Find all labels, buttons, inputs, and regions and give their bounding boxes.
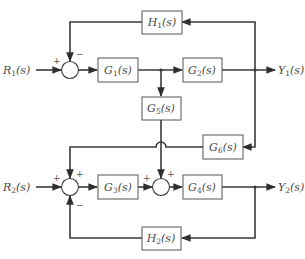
block-g2: G2(s) bbox=[183, 58, 222, 82]
wire-y1-to-g6 bbox=[243, 70, 255, 147]
block-diagram: + − + + − + + H1(s) G1(s) G2(s) G5(s) G6… bbox=[0, 0, 305, 259]
block-g5: G5(s) bbox=[142, 97, 181, 120]
summing-junction-2 bbox=[62, 179, 79, 196]
sum2-sign-top: + bbox=[76, 169, 84, 179]
block-h1: H1(s) bbox=[142, 11, 182, 34]
summing-junction-1 bbox=[62, 62, 79, 79]
summing-junction-3 bbox=[153, 179, 170, 196]
sum3-sign-left: + bbox=[143, 173, 151, 183]
block-h2: H2(s) bbox=[142, 227, 181, 250]
svg-text:H1(s): H1(s) bbox=[147, 16, 177, 30]
svg-text:G6(s): G6(s) bbox=[209, 141, 237, 155]
block-g3: G3(s) bbox=[98, 175, 138, 199]
block-g6: G6(s) bbox=[203, 135, 243, 159]
svg-text:G2(s): G2(s) bbox=[188, 64, 216, 78]
sum2-sign-bottom: − bbox=[76, 200, 84, 210]
output-label-y1: Y1(s) bbox=[278, 64, 304, 78]
input-label-r1: R1(s) bbox=[2, 64, 30, 78]
sum3-sign-top: + bbox=[167, 169, 175, 179]
wire-g6-to-sum2 bbox=[70, 142, 203, 178]
input-label-r2: R2(s) bbox=[2, 181, 30, 195]
sum1-sign-top: − bbox=[76, 49, 84, 59]
svg-text:H2(s): H2(s) bbox=[146, 232, 176, 246]
svg-text:G3(s): G3(s) bbox=[104, 181, 132, 195]
output-label-y2: Y2(s) bbox=[278, 181, 304, 195]
svg-text:G4(s): G4(s) bbox=[188, 181, 216, 195]
svg-text:G5(s): G5(s) bbox=[147, 102, 175, 116]
svg-text:G1(s): G1(s) bbox=[104, 64, 132, 78]
block-g4: G4(s) bbox=[183, 175, 222, 199]
sum2-sign-left: + bbox=[53, 173, 61, 183]
sum1-sign-left: + bbox=[53, 56, 61, 66]
block-g1: G1(s) bbox=[98, 58, 138, 82]
